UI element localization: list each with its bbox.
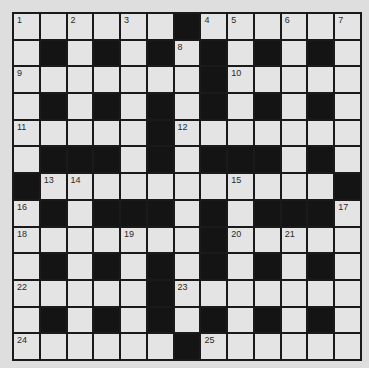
grid-cell[interactable] xyxy=(148,67,173,92)
grid-cell[interactable] xyxy=(335,67,360,92)
grid-cell[interactable] xyxy=(121,334,146,359)
grid-cell[interactable] xyxy=(335,41,360,66)
grid-cell[interactable] xyxy=(308,121,333,146)
grid-cell[interactable] xyxy=(282,67,307,92)
grid-cell[interactable] xyxy=(121,308,146,333)
grid-cell[interactable]: 2 xyxy=(68,14,93,39)
grid-cell[interactable] xyxy=(255,121,280,146)
grid-cell[interactable] xyxy=(335,94,360,119)
grid-cell[interactable] xyxy=(335,281,360,306)
grid-cell[interactable] xyxy=(68,334,93,359)
grid-cell[interactable] xyxy=(308,281,333,306)
grid-cell[interactable] xyxy=(68,94,93,119)
grid-cell[interactable]: 7 xyxy=(335,14,360,39)
grid-cell[interactable] xyxy=(175,308,200,333)
grid-cell[interactable] xyxy=(68,201,93,226)
grid-cell[interactable] xyxy=(14,94,39,119)
grid-cell[interactable] xyxy=(68,281,93,306)
grid-cell[interactable] xyxy=(335,228,360,253)
grid-cell[interactable] xyxy=(121,121,146,146)
grid-cell[interactable] xyxy=(148,14,173,39)
grid-cell[interactable] xyxy=(94,281,119,306)
grid-cell[interactable] xyxy=(94,334,119,359)
grid-cell[interactable] xyxy=(41,228,66,253)
grid-cell[interactable]: 4 xyxy=(201,14,226,39)
grid-cell[interactable] xyxy=(175,254,200,279)
grid-cell[interactable] xyxy=(228,121,253,146)
grid-cell[interactable] xyxy=(68,254,93,279)
grid-cell[interactable] xyxy=(14,254,39,279)
grid-cell[interactable] xyxy=(175,94,200,119)
grid-cell[interactable] xyxy=(228,41,253,66)
grid-cell[interactable] xyxy=(148,174,173,199)
grid-cell[interactable] xyxy=(308,174,333,199)
grid-cell[interactable]: 14 xyxy=(68,174,93,199)
grid-cell[interactable] xyxy=(175,201,200,226)
grid-cell[interactable] xyxy=(68,308,93,333)
grid-cell[interactable]: 10 xyxy=(228,67,253,92)
grid-cell[interactable] xyxy=(121,254,146,279)
grid-cell[interactable] xyxy=(335,121,360,146)
grid-cell[interactable] xyxy=(255,14,280,39)
grid-cell[interactable] xyxy=(228,334,253,359)
grid-cell[interactable] xyxy=(282,334,307,359)
grid-cell[interactable] xyxy=(282,254,307,279)
grid-cell[interactable] xyxy=(335,147,360,172)
grid-cell[interactable]: 12 xyxy=(175,121,200,146)
grid-cell[interactable] xyxy=(308,228,333,253)
grid-cell[interactable] xyxy=(201,281,226,306)
grid-cell[interactable] xyxy=(94,14,119,39)
grid-cell[interactable] xyxy=(282,308,307,333)
grid-cell[interactable] xyxy=(255,334,280,359)
grid-cell[interactable] xyxy=(121,281,146,306)
grid-cell[interactable]: 23 xyxy=(175,281,200,306)
grid-cell[interactable] xyxy=(255,281,280,306)
grid-cell[interactable] xyxy=(14,308,39,333)
grid-cell[interactable] xyxy=(68,67,93,92)
grid-cell[interactable] xyxy=(121,174,146,199)
grid-cell[interactable] xyxy=(228,254,253,279)
grid-cell[interactable] xyxy=(228,201,253,226)
grid-cell[interactable] xyxy=(201,174,226,199)
grid-cell[interactable]: 11 xyxy=(14,121,39,146)
grid-cell[interactable] xyxy=(308,334,333,359)
grid-cell[interactable] xyxy=(282,174,307,199)
grid-cell[interactable] xyxy=(228,281,253,306)
grid-cell[interactable]: 1 xyxy=(14,14,39,39)
grid-cell[interactable] xyxy=(228,94,253,119)
grid-cell[interactable]: 6 xyxy=(282,14,307,39)
grid-cell[interactable] xyxy=(68,121,93,146)
grid-cell[interactable] xyxy=(41,121,66,146)
grid-cell[interactable] xyxy=(282,94,307,119)
grid-cell[interactable] xyxy=(308,67,333,92)
grid-cell[interactable]: 22 xyxy=(14,281,39,306)
grid-cell[interactable] xyxy=(121,147,146,172)
grid-cell[interactable] xyxy=(94,67,119,92)
grid-cell[interactable]: 20 xyxy=(228,228,253,253)
grid-cell[interactable]: 3 xyxy=(121,14,146,39)
grid-cell[interactable] xyxy=(121,94,146,119)
grid-cell[interactable] xyxy=(335,254,360,279)
grid-cell[interactable]: 19 xyxy=(121,228,146,253)
grid-cell[interactable] xyxy=(41,67,66,92)
grid-cell[interactable] xyxy=(175,67,200,92)
grid-cell[interactable]: 18 xyxy=(14,228,39,253)
grid-cell[interactable] xyxy=(175,147,200,172)
grid-cell[interactable] xyxy=(148,334,173,359)
grid-cell[interactable] xyxy=(335,334,360,359)
grid-cell[interactable] xyxy=(175,174,200,199)
grid-cell[interactable] xyxy=(121,67,146,92)
grid-cell[interactable] xyxy=(94,174,119,199)
grid-cell[interactable] xyxy=(175,228,200,253)
grid-cell[interactable] xyxy=(121,41,146,66)
grid-cell[interactable] xyxy=(282,121,307,146)
grid-cell[interactable]: 13 xyxy=(41,174,66,199)
grid-cell[interactable] xyxy=(282,281,307,306)
grid-cell[interactable]: 21 xyxy=(282,228,307,253)
grid-cell[interactable] xyxy=(68,228,93,253)
grid-cell[interactable] xyxy=(201,121,226,146)
grid-cell[interactable] xyxy=(228,308,253,333)
grid-cell[interactable]: 9 xyxy=(14,67,39,92)
grid-cell[interactable] xyxy=(282,41,307,66)
grid-cell[interactable] xyxy=(255,67,280,92)
